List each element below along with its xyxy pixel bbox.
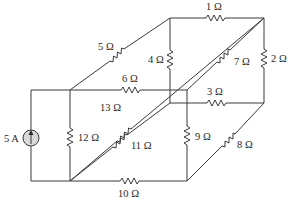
label-13-ohm: 13 Ω xyxy=(100,102,121,113)
label-8-ohm: 8 Ω xyxy=(237,139,253,150)
resistor-3 xyxy=(187,100,264,106)
circuit-diagram: 5 A 12 Ω 6 Ω 5 Ω 1 Ω 4 Ω 2 Ω xyxy=(0,0,290,204)
label-9-ohm: 9 Ω xyxy=(195,131,211,142)
resistor-2 xyxy=(261,18,267,103)
resistor-10 xyxy=(70,178,187,184)
label-3-ohm: 3 Ω xyxy=(207,86,223,97)
source-label: 5 A xyxy=(4,133,19,144)
resistor-1 xyxy=(170,15,264,21)
current-source xyxy=(23,130,39,146)
label-7-ohm: 7 Ω xyxy=(234,56,250,67)
label-2-ohm: 2 Ω xyxy=(271,53,287,64)
cube-corner-wires xyxy=(170,90,187,103)
label-11-ohm: 11 Ω xyxy=(131,140,152,151)
resistor-6 xyxy=(70,87,187,93)
label-5-ohm: 5 Ω xyxy=(98,41,114,52)
label-6-ohm: 6 Ω xyxy=(122,73,138,84)
label-4-ohm: 4 Ω xyxy=(148,54,164,65)
resistor-9 xyxy=(184,103,190,181)
label-1-ohm: 1 Ω xyxy=(206,1,222,12)
label-12-ohm: 12 Ω xyxy=(78,132,99,143)
label-10-ohm: 10 Ω xyxy=(118,188,139,199)
resistor-7 xyxy=(187,18,264,90)
resistor-12 xyxy=(67,90,73,181)
